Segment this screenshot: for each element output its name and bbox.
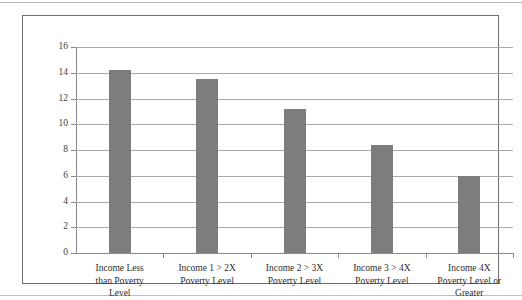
bar [109,70,131,253]
x-axis-category-label-line: Income 1 > 2X [163,262,250,275]
x-axis-category-label-line: than Poverty [76,275,163,288]
x-axis-category-label: Income Lessthan PovertyLevel [76,262,163,300]
bar [458,176,480,253]
y-axis-tick-label: 16 [59,42,69,52]
gridline [76,47,513,48]
y-axis-tick [71,253,76,254]
y-axis-tick [71,73,76,74]
x-axis-category-label-line: Income Less [76,262,163,275]
x-axis-tick [251,253,252,258]
x-axis-category-label-line: Poverty Level or [426,275,513,288]
x-axis-category-label-line: Income 2 > 3X [251,262,338,275]
x-axis-tick [426,253,427,258]
x-axis-category-label-line: Poverty Level [338,275,425,288]
gridline [76,73,513,74]
x-axis-tick [338,253,339,258]
y-axis-tick [71,176,76,177]
x-axis-tick [513,253,514,258]
x-axis-line [76,253,513,254]
x-axis-tick [163,253,164,258]
chart-figure-frame: 0246810121416Income Lessthan PovertyLeve… [22,15,499,284]
y-axis-tick-label: 10 [59,120,69,130]
y-axis-tick-label: 6 [63,171,68,181]
x-axis-category-label-line: Income 4X [426,262,513,275]
y-axis-tick-label: 4 [63,197,68,207]
bar [371,145,393,253]
plot-area: 0246810121416Income Lessthan PovertyLeve… [76,47,513,253]
y-axis-tick [71,202,76,203]
bar [284,109,306,253]
page-top-rule [0,2,522,3]
x-axis-category-label-line: Greater [426,287,513,300]
x-axis-category-label-line: Poverty Level [251,275,338,288]
x-axis-category-label: Income 1 > 2XPoverty Level [163,262,250,287]
x-axis-category-label-line: Income 3 > 4X [338,262,425,275]
x-axis-category-label: Income 3 > 4XPoverty Level [338,262,425,287]
y-axis-tick-label: 12 [59,94,69,104]
y-axis-tick [71,227,76,228]
y-axis-tick [71,124,76,125]
x-axis-category-label: Income 2 > 3XPoverty Level [251,262,338,287]
y-axis-tick [71,47,76,48]
x-axis-category-label: Income 4XPoverty Level orGreater [426,262,513,300]
y-axis-tick [71,150,76,151]
y-axis-tick-label: 14 [59,68,69,78]
y-axis-tick [71,99,76,100]
gridline [76,99,513,100]
x-axis-category-label-line: Poverty Level [163,275,250,288]
y-axis-tick-label: 0 [63,248,68,258]
y-axis-tick-label: 2 [63,223,68,233]
bar [196,79,218,253]
y-axis-tick-label: 8 [63,145,68,155]
x-axis-category-label-line: Level [76,287,163,300]
